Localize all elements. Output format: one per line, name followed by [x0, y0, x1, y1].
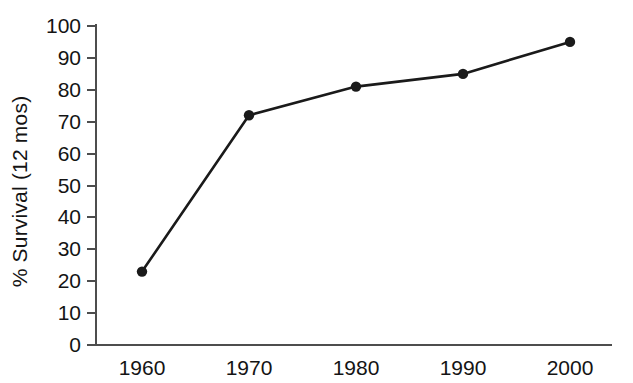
survival-line-chart: 0102030405060708090100 19601970198019902… — [0, 0, 633, 383]
chart-plot-area — [0, 0, 633, 383]
data-series-group — [137, 37, 575, 277]
data-point-marker — [565, 37, 575, 47]
series-line — [142, 42, 570, 272]
y-axis-tick-marks — [87, 26, 96, 345]
data-point-marker — [137, 266, 147, 276]
series-markers — [137, 37, 575, 277]
data-point-marker — [351, 81, 361, 91]
data-point-marker — [244, 110, 254, 120]
axes-group — [95, 24, 612, 345]
data-point-marker — [458, 69, 468, 79]
